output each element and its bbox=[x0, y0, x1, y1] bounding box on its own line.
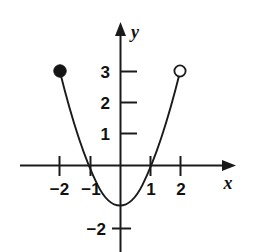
x-tick-label-1: 1 bbox=[146, 180, 155, 199]
x-tick-label-2: 2 bbox=[176, 180, 185, 199]
x-tick-label--1: −1 bbox=[81, 180, 100, 199]
x-tick-label--2: −2 bbox=[50, 180, 69, 199]
y-axis bbox=[115, 22, 126, 252]
graph-figure: −2 −1 1 2 3 2 1 −2 y x bbox=[0, 0, 253, 252]
endpoint-open-2-3 bbox=[174, 65, 185, 76]
y-tick-label-2: 2 bbox=[101, 94, 110, 113]
coordinate-plane: −2 −1 1 2 3 2 1 −2 y x bbox=[0, 0, 253, 252]
x-axis-label: x bbox=[223, 173, 233, 193]
x-axis bbox=[20, 160, 236, 171]
y-tick-label-3: 3 bbox=[101, 63, 110, 82]
y-tick-label--2: −2 bbox=[87, 220, 106, 239]
x-axis-arrow-icon bbox=[222, 160, 236, 171]
endpoint-closed-minus2-3 bbox=[54, 65, 66, 77]
y-axis-arrow-icon bbox=[115, 22, 126, 36]
y-tick-label-1: 1 bbox=[101, 125, 110, 144]
y-axis-label: y bbox=[129, 22, 140, 42]
